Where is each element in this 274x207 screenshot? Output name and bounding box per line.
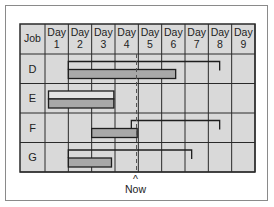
day-header-label: Day	[94, 26, 113, 38]
day-header-number: 9	[240, 38, 246, 50]
gantt-chart: Job Day1Day2Day3Day4Day5Day6Day7Day8Day9…	[0, 0, 274, 207]
day-header-label: Day	[71, 26, 90, 38]
day-header-number: 7	[194, 38, 200, 50]
job-label: F	[29, 122, 36, 134]
job-label: G	[28, 151, 37, 163]
header-job-label: Job	[24, 32, 41, 44]
day-header-number: 3	[100, 38, 106, 50]
day-header-number: 2	[77, 38, 83, 50]
day-header-label: Day	[141, 26, 160, 38]
day-header-number: 6	[170, 38, 176, 50]
day-header-number: 8	[217, 38, 223, 50]
day-header-label: Day	[234, 26, 253, 38]
day-header-label: Day	[164, 26, 183, 38]
actual-bar	[68, 158, 111, 167]
now-label: Now	[125, 183, 146, 195]
job-label: E	[29, 92, 36, 104]
day-header-label: Day	[187, 26, 206, 38]
day-header-number: 1	[54, 38, 60, 50]
actual-bar	[92, 129, 137, 138]
day-header-label: Day	[211, 26, 230, 38]
day-header-label: Day	[47, 26, 66, 38]
planned-bar	[49, 91, 114, 99]
job-label: D	[29, 63, 37, 75]
job-row-e	[49, 91, 114, 108]
day-header-label: Day	[117, 26, 136, 38]
day-headers: Day1Day2Day3Day4Day5Day6Day7Day8Day9	[47, 26, 253, 50]
actual-bar	[68, 70, 175, 79]
day-header-number: 4	[124, 38, 130, 50]
actual-bar	[49, 99, 114, 108]
day-header-number: 5	[147, 38, 153, 50]
